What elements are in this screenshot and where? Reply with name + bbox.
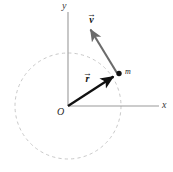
point-mass-label: m — [125, 68, 131, 76]
origin-label: O — [57, 107, 64, 117]
velocity-vector-label: → v — [87, 12, 96, 25]
x-axis-label: x — [162, 100, 166, 110]
y-axis-label: y — [62, 1, 66, 11]
position-vector-label: → r — [83, 71, 92, 84]
diagram-svg — [0, 0, 173, 172]
physics-diagram-canvas: y x O m → v → r — [0, 0, 173, 172]
point-mass-dot — [116, 71, 121, 76]
